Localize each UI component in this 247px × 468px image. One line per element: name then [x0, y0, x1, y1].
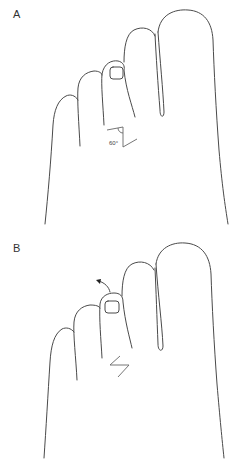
third-toe-outline: [102, 61, 135, 125]
second-toe-outline: [122, 262, 154, 296]
angle-arc: [118, 128, 123, 133]
second-toe-outline: [124, 28, 155, 62]
toenail: [105, 301, 119, 313]
angle-label: 60°: [109, 140, 119, 146]
z-incision-transposed: [110, 356, 129, 377]
fifth-toe-outline: [44, 328, 74, 458]
arrow-head-icon: [96, 279, 101, 284]
third-toe-outline: [100, 293, 132, 358]
panel-b: B: [0, 234, 247, 468]
fifth-toe-outline: [45, 95, 78, 224]
big-toe-cleft: [155, 32, 164, 116]
fourth-toe-outline: [78, 71, 102, 146]
foot-illustration-a: 60°: [0, 0, 247, 234]
panel-a: A 60°: [0, 0, 247, 234]
big-toe-cleft: [155, 264, 163, 350]
big-toe-outline: [158, 10, 228, 224]
toenail: [110, 67, 123, 79]
rotation-arrow: [99, 281, 110, 292]
big-toe-outline: [156, 243, 224, 458]
fourth-toe-outline: [74, 305, 100, 380]
foot-illustration-b: [0, 234, 247, 468]
